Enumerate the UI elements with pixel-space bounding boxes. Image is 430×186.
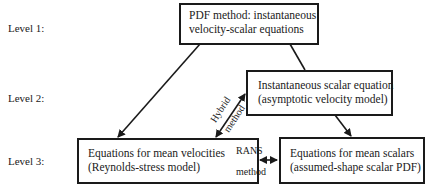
rans-label: RANS [236,145,263,156]
box-mean-velocities-line1: Equations for mean velocities [88,147,249,161]
box-instantaneous-scalar-line1: Instantaneous scalar equation [258,79,383,93]
rans-method-label: method [236,166,266,177]
box-pdf-method-line1: PDF method: instantaneous [189,9,309,23]
box-mean-scalars-line1: Equations for mean scalars [290,147,415,161]
box-mean-scalars: Equations for mean scalars (assumed-shap… [279,137,425,184]
arrow-pdf-to-mean-velocities [118,44,200,137]
box-mean-scalars-line2: (assumed-shape scalar PDF) [290,161,415,175]
line-pdf-to-instantaneous-scalar [290,44,305,70]
arrow-instantaneous-to-mean-scalars [335,115,351,136]
box-pdf-method: PDF method: instantaneous velocity-scala… [179,3,319,45]
box-instantaneous-scalar-line2: (asymptotic velocity model) [258,93,383,107]
box-pdf-method-line2: velocity-scalar equations [189,23,309,37]
box-mean-velocities: Equations for mean velocities (Reynolds-… [77,138,259,184]
box-mean-velocities-line2: (Reynolds-stress model) [88,161,249,175]
box-instantaneous-scalar: Instantaneous scalar equation (asymptoti… [246,70,393,116]
